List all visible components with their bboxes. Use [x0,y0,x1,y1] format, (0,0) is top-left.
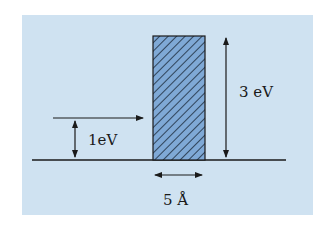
barrier-diagram: 1eV 3 eV 5 Å [0,0,321,231]
potential-barrier [153,36,205,160]
barrier-width-label: 5 Å [163,191,188,209]
barrier-height-label: 3 eV [239,83,274,101]
particle-energy-label: 1eV [88,131,118,149]
